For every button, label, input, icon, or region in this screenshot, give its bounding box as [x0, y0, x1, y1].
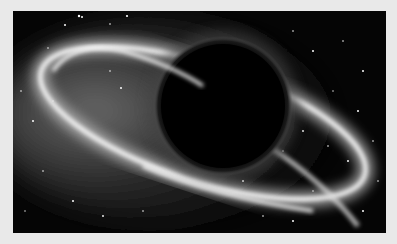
black-hole-image	[13, 11, 386, 233]
space-scene	[13, 11, 386, 233]
